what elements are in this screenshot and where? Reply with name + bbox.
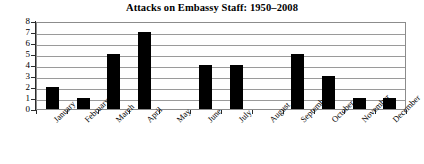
y-tick-mark	[31, 44, 36, 45]
y-tick-mark	[31, 66, 36, 67]
x-tick-label: September	[299, 92, 331, 124]
x-tick-label: December	[391, 93, 422, 124]
x-tick-mark	[190, 110, 191, 114]
x-tick-mark	[98, 110, 99, 114]
y-tick-mark	[31, 22, 36, 23]
x-tick-mark	[314, 110, 315, 114]
x-tick-label: April	[145, 105, 164, 124]
x-tick-mark	[406, 110, 407, 114]
x-tick-mark	[283, 110, 284, 114]
x-tick-label: August	[268, 101, 292, 125]
x-tick-label: January	[52, 99, 77, 124]
y-tick-mark	[31, 77, 36, 78]
x-tick-label: October	[330, 99, 356, 125]
x-axis-labels: JanuaryFebruaryMarchAprilMayJuneJulyAugu…	[0, 0, 424, 164]
y-tick-mark	[31, 99, 36, 100]
x-tick-mark	[252, 110, 253, 114]
x-tick-mark	[159, 110, 160, 114]
x-tick-mark	[375, 110, 376, 114]
y-tick-mark	[31, 33, 36, 34]
y-tick-mark	[31, 55, 36, 56]
x-tick-mark	[221, 110, 222, 114]
bar-chart: Attacks on Embassy Staff: 1950–2008 8765…	[0, 0, 424, 164]
x-tick-mark	[67, 110, 68, 114]
x-tick-mark	[129, 110, 130, 114]
x-tick-mark	[36, 110, 37, 114]
y-tick-mark	[31, 88, 36, 89]
x-tick-mark	[344, 110, 345, 114]
x-tick-label: March	[114, 102, 136, 124]
x-tick-label: November	[360, 93, 392, 125]
